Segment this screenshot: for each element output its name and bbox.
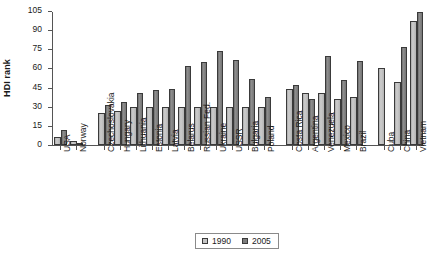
x-tick xyxy=(308,146,309,150)
x-label-latvia: Latvia xyxy=(171,129,180,152)
x-tick xyxy=(384,146,385,150)
x-tick xyxy=(356,146,357,150)
x-label-argentina: Argentina xyxy=(311,116,320,152)
x-label-norway: Norway xyxy=(79,123,88,152)
y-tick-label: 90 xyxy=(33,24,42,35)
x-tick xyxy=(248,146,249,150)
y-tick: 45 xyxy=(48,88,52,89)
x-label-poland: Poland xyxy=(267,126,276,152)
y-tick-label: 60 xyxy=(33,62,42,73)
legend-swatch-1990-icon xyxy=(202,238,208,244)
x-tick xyxy=(120,146,121,150)
x-tick xyxy=(292,146,293,150)
x-label-costa-rica: Costa Rica xyxy=(295,110,304,152)
x-tick xyxy=(168,146,169,150)
legend-label-2005: 2005 xyxy=(252,236,271,246)
legend-label-1990: 1990 xyxy=(212,236,231,246)
y-tick-label: 105 xyxy=(28,5,42,16)
x-label-brazil: Brazil xyxy=(359,131,368,152)
chart-legend: 1990 2005 xyxy=(195,233,279,249)
x-label-hungary: Hungary xyxy=(123,120,132,152)
x-label-estonia: Estonia xyxy=(155,124,164,152)
legend-item-1990: 1990 xyxy=(202,236,231,246)
x-label-czechoslovakia: Czechoslovakia xyxy=(107,92,116,152)
x-label-ussr: USSR xyxy=(235,128,244,152)
x-tick xyxy=(200,146,201,150)
y-tick: 30 xyxy=(48,107,52,108)
y-tick-label: 75 xyxy=(33,43,42,54)
x-label-ukraine: Ukraine xyxy=(219,123,228,152)
x-tick xyxy=(152,146,153,150)
y-tick-label: 45 xyxy=(33,82,42,93)
x-label-venezuela: Venezuela xyxy=(327,112,336,152)
x-label-lithuania: Lithuania xyxy=(139,117,148,152)
y-tick: 90 xyxy=(48,30,52,31)
y-tick: 60 xyxy=(48,68,52,69)
y-tick: 0 xyxy=(48,145,52,146)
x-tick xyxy=(232,146,233,150)
y-tick: 15 xyxy=(48,126,52,127)
x-label-bulgaria: Bulgaria xyxy=(251,121,260,152)
x-label-cuba: Cuba xyxy=(387,132,396,152)
y-tick: 105 xyxy=(48,11,52,12)
x-tick xyxy=(264,146,265,150)
x-tick xyxy=(136,146,137,150)
x-label-belarus: Belarus xyxy=(187,123,196,152)
bar-1990-cuba xyxy=(378,68,384,145)
x-label-russian-fed-: Russian Fed. xyxy=(203,102,212,152)
hdi-rank-bar-chart: HDI rank 0153045607590105 USANorwayCzech… xyxy=(0,0,430,260)
y-tick-label: 30 xyxy=(33,101,42,112)
y-tick-label: 0 xyxy=(37,139,42,150)
x-label-vietnam: Vietnam xyxy=(419,121,428,152)
x-tick xyxy=(76,146,77,150)
x-tick xyxy=(104,146,105,150)
legend-item-2005: 2005 xyxy=(242,236,271,246)
x-tick xyxy=(184,146,185,150)
x-tick xyxy=(340,146,341,150)
y-tick-label: 15 xyxy=(33,120,42,131)
x-axis-category-labels: USANorwayCzechoslovakiaHungaryLithuaniaE… xyxy=(52,152,424,222)
x-label-china: China xyxy=(403,130,412,152)
y-tick: 75 xyxy=(48,49,52,50)
y-axis-title: HDI rank xyxy=(2,18,12,138)
x-tick xyxy=(416,146,417,150)
x-tick xyxy=(216,146,217,150)
legend-swatch-2005-icon xyxy=(242,238,248,244)
x-tick xyxy=(324,146,325,150)
x-label-usa: USA xyxy=(63,135,72,152)
x-tick xyxy=(400,146,401,150)
x-tick xyxy=(60,146,61,150)
x-label-mexico: Mexico xyxy=(343,125,352,152)
